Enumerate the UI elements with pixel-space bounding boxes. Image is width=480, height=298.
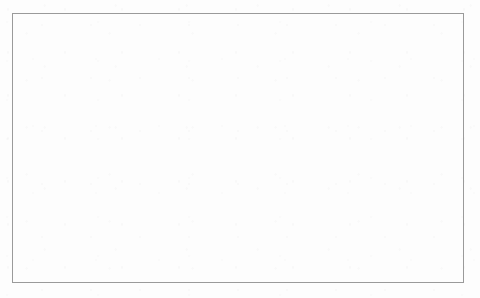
diagram-frame-border — [12, 13, 464, 283]
diagram-canvas — [0, 0, 480, 298]
